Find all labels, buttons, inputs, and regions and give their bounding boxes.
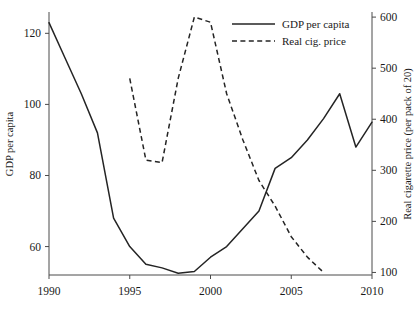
legend-label: GDP per capita bbox=[282, 18, 350, 30]
left-tick-label: 80 bbox=[30, 169, 42, 181]
axis-right: 100200300400500600 Real cigarette price … bbox=[372, 11, 414, 278]
right-axis-title: Real cigarette price (per pack of 20) bbox=[402, 68, 414, 220]
bottom-tick-label: 2010 bbox=[361, 285, 384, 297]
left-axis-ticks: 6080100120 bbox=[24, 27, 49, 252]
series-line-gdp-per-capita bbox=[49, 23, 372, 274]
axis-left: 6080100120 GDP per capita bbox=[4, 12, 49, 275]
left-tick-label: 100 bbox=[24, 98, 42, 110]
chart-svg: 6080100120 GDP per capita 19901995200020… bbox=[0, 0, 419, 311]
bottom-tick-label: 1990 bbox=[38, 285, 61, 297]
right-axis-ticks: 100200300400500600 bbox=[372, 11, 398, 278]
right-tick-label: 500 bbox=[380, 62, 398, 74]
left-axis-title: GDP per capita bbox=[4, 111, 15, 176]
series-group bbox=[49, 17, 372, 273]
bottom-tick-label: 2000 bbox=[199, 285, 222, 297]
right-tick-label: 300 bbox=[380, 164, 398, 176]
legend-label: Real cig. price bbox=[282, 35, 346, 47]
bottom-axis-ticks: 19901995200020052010 bbox=[38, 275, 384, 297]
bottom-tick-label: 2005 bbox=[280, 285, 303, 297]
series-line-real-cig-price bbox=[130, 17, 324, 272]
chart-container: 6080100120 GDP per capita 19901995200020… bbox=[0, 0, 419, 311]
left-tick-label: 120 bbox=[24, 27, 42, 39]
right-tick-label: 400 bbox=[380, 113, 398, 125]
right-tick-label: 600 bbox=[380, 11, 398, 23]
chart-legend: GDP per capitaReal cig. price bbox=[232, 18, 350, 47]
axis-bottom: 19901995200020052010 bbox=[38, 275, 384, 297]
bottom-tick-label: 1995 bbox=[118, 285, 141, 297]
right-tick-label: 100 bbox=[380, 266, 398, 278]
left-tick-label: 60 bbox=[30, 241, 42, 253]
right-tick-label: 200 bbox=[380, 215, 398, 227]
